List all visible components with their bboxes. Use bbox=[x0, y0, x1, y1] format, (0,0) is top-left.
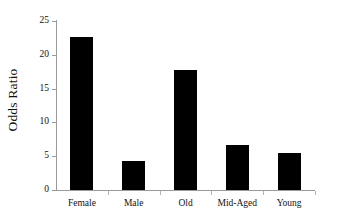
x-tick-label: Young bbox=[277, 197, 302, 210]
y-tick: 15 bbox=[0, 89, 56, 90]
y-tick-label: 10 bbox=[40, 115, 50, 128]
bar-mid-aged bbox=[226, 145, 249, 190]
y-axis-title: Odds Ratio bbox=[0, 0, 26, 200]
y-tick-label: 0 bbox=[44, 183, 49, 196]
y-tick: 5 bbox=[0, 156, 56, 157]
x-tick-mark bbox=[211, 191, 212, 195]
y-tick: 10 bbox=[0, 122, 56, 123]
y-tick: 20 bbox=[0, 55, 56, 56]
y-tick-label: 5 bbox=[44, 149, 49, 162]
bar-male bbox=[122, 161, 145, 190]
y-tick-mark bbox=[52, 190, 56, 191]
x-tick-mark bbox=[263, 191, 264, 195]
x-tick-mark bbox=[315, 191, 316, 195]
x-axis-line bbox=[56, 190, 315, 191]
y-tick: 25 bbox=[0, 21, 56, 22]
plot-area bbox=[56, 21, 315, 190]
y-tick: 0 bbox=[0, 190, 56, 191]
x-tick-mark bbox=[108, 191, 109, 195]
x-tick-label: Male bbox=[124, 197, 144, 210]
bar-young bbox=[278, 153, 301, 190]
bar-old bbox=[174, 70, 197, 190]
y-tick-label: 15 bbox=[40, 82, 50, 95]
y-tick-label: 25 bbox=[40, 14, 50, 27]
x-tick-label: Mid-Aged bbox=[218, 197, 258, 210]
bar-female bbox=[70, 37, 93, 190]
bar-chart: Odds Ratio 0510152025 FemaleMaleOldMid-A… bbox=[0, 0, 338, 222]
x-tick-label: Female bbox=[68, 197, 96, 210]
y-tick-label: 20 bbox=[40, 48, 50, 61]
x-tick-mark bbox=[160, 191, 161, 195]
x-tick-label: Old bbox=[178, 197, 192, 210]
